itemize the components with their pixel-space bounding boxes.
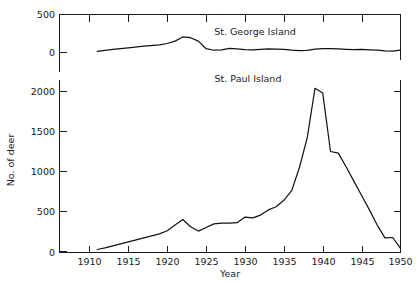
lower-ytick-label-500: 500 — [37, 206, 55, 217]
upper-ytick-label-500: 500 — [37, 9, 55, 20]
st-george-island-line — [97, 37, 400, 51]
xtick-label-1935: 1935 — [272, 256, 296, 267]
upper-panel-xticks — [90, 15, 363, 22]
xtick-label-1910: 1910 — [77, 256, 101, 267]
st-george-island-label: St. George Island — [214, 26, 296, 37]
xtick-label-1920: 1920 — [155, 256, 179, 267]
upper-ytick-label-0: 0 — [49, 47, 55, 58]
x-axis-title: Year — [219, 268, 240, 279]
xtick-label-1940: 1940 — [311, 256, 335, 267]
xtick-label-1930: 1930 — [233, 256, 257, 267]
lower-panel-right-yticks — [394, 92, 401, 212]
lower-panel: 2000 1500 1000 500 0 1910 — [31, 73, 413, 267]
y-axis-title: No. of deer — [5, 134, 16, 187]
lower-ytick-label-1500: 1500 — [31, 126, 55, 137]
lower-ytick-label-1000: 1000 — [31, 166, 55, 177]
lower-ytick-label-2000: 2000 — [31, 86, 55, 97]
st-paul-island-label: St. Paul Island — [215, 73, 282, 84]
upper-panel: 500 0 St. George Island — [37, 9, 401, 73]
xtick-label-1945: 1945 — [350, 256, 374, 267]
figure-container: No. of deer 500 0 — [0, 0, 418, 282]
lower-ytick-label-0: 0 — [49, 247, 55, 258]
deer-population-chart: No. of deer 500 0 — [0, 0, 418, 282]
lower-panel-yticks: 2000 1500 1000 500 0 — [31, 86, 67, 258]
xtick-label-1950: 1950 — [388, 256, 412, 267]
x-axis-ticks: 1910 1915 1920 1925 1930 1935 1940 1945 … — [77, 246, 412, 268]
xtick-label-1915: 1915 — [116, 256, 140, 267]
xtick-label-1925: 1925 — [194, 256, 218, 267]
st-paul-island-line — [97, 88, 400, 249]
